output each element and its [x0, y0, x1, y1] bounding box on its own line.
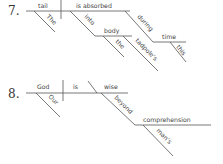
predicate-adjective-word: wise — [104, 83, 118, 90]
modifier-word: the — [114, 38, 126, 50]
verb-word: is absorbed — [76, 2, 112, 9]
modifier-word: man's — [155, 127, 173, 145]
object-word: body — [104, 27, 120, 35]
preposition-word: during — [136, 13, 156, 33]
diagram-number: 7. — [8, 4, 19, 18]
modifier-word: Our — [47, 93, 60, 106]
modifier-word: this — [175, 43, 187, 56]
subject-word: tail — [38, 2, 48, 9]
diagram-7: 7. tail is absorbed The into body the ta… — [8, 0, 188, 71]
preposition-word: into — [83, 13, 96, 26]
predicate-separator — [88, 81, 97, 93]
object-word: comprehension — [143, 116, 191, 124]
subject-word: God — [37, 83, 50, 90]
diagram-8: 8. God is wise Our beyond comprehension … — [8, 80, 211, 156]
preposition-word: beyond — [113, 94, 135, 116]
modifier-word: tadpole's — [134, 37, 160, 63]
sentence-diagrams: 7. tail is absorbed The into body the ta… — [0, 0, 223, 164]
object-word: time — [162, 33, 176, 40]
verb-word: is — [73, 83, 78, 90]
diagram-number: 8. — [8, 87, 19, 101]
